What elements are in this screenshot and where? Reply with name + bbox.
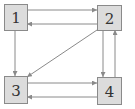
edge-2-to-3 (27, 30, 97, 77)
node-label: 1 (11, 9, 21, 27)
node-label: 2 (105, 10, 115, 28)
node-label: 3 (11, 82, 21, 100)
node-4: 4 (98, 78, 122, 105)
node-label: 4 (105, 83, 115, 101)
node-2: 2 (98, 6, 122, 31)
node-1: 1 (5, 5, 28, 31)
directed-graph: 1234 (0, 0, 135, 109)
nodes-group: 1234 (5, 5, 122, 105)
node-3: 3 (5, 77, 28, 104)
